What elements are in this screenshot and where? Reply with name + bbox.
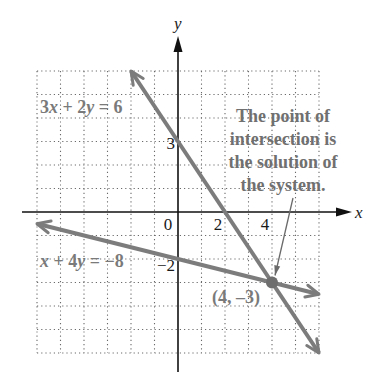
equation-label-part: = −8 (85, 251, 124, 271)
y-axis-arrow-icon (174, 36, 183, 52)
equation-label-part: = 6 (94, 97, 122, 117)
intersection-label: (4, –3) (212, 287, 260, 308)
equation-label-part: + 4 (49, 251, 77, 271)
x-tick-label: 4 (261, 215, 270, 234)
equation-label-part: 3 (40, 97, 49, 117)
annotation-line: The point of (236, 106, 331, 126)
annotation-text: The point ofintersection isthe solution … (228, 106, 338, 195)
annotation-line: the solution of (228, 152, 338, 172)
system-of-equations-graph: x y 0243−2 3x + 2y = 6 x + 4y = −8 The p… (0, 0, 380, 386)
annotation-arrowhead-icon (274, 265, 280, 275)
equation-label-part: + 2 (58, 97, 86, 117)
series-labels: 3x + 2y = 6 x + 4y = −8 (39, 97, 124, 271)
equation-label-part: x (39, 251, 49, 271)
annotation-line: intersection is (230, 129, 336, 149)
x-tick-label: 0 (164, 215, 173, 234)
intersection-point (266, 277, 278, 289)
y-axis-label: y (172, 14, 182, 33)
annotation: The point ofintersection isthe solution … (228, 106, 338, 276)
x-axis-arrow-icon (336, 208, 352, 217)
x-axis-label: x (354, 203, 363, 222)
annotation-pointer (275, 198, 293, 276)
equation-label-2: x + 4y = −8 (39, 251, 124, 271)
annotation-line: the system. (241, 175, 326, 195)
equation-label-1: 3x + 2y = 6 (40, 97, 123, 117)
equation-label-part: x (48, 97, 58, 117)
x-tick-label: 2 (214, 215, 223, 234)
intersection: (4, –3) (212, 277, 278, 309)
